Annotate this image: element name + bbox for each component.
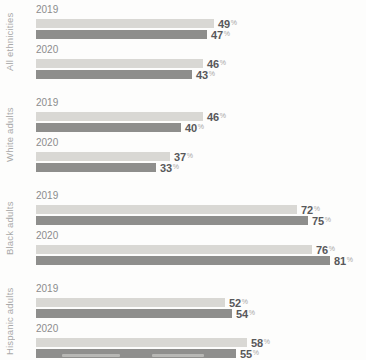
cropped-legend-remnant: [152, 354, 204, 357]
percent-sign: %: [231, 19, 237, 26]
bar-row: 72%: [36, 205, 366, 214]
value-label: 72%: [301, 204, 320, 215]
bar-row: 43%: [36, 70, 366, 79]
value-label: 54%: [236, 308, 255, 319]
year-group: 201949%47%: [36, 5, 366, 39]
value-label: 58%: [251, 337, 270, 348]
percent-sign: %: [253, 349, 259, 356]
bar-row: 37%: [36, 152, 366, 161]
bar-row: 81%: [36, 256, 366, 265]
category-section: Black adults201972%75%202076%81%: [0, 191, 366, 265]
value-label: 55%: [240, 348, 259, 359]
dark-gray-series-bar: [36, 163, 156, 172]
bar-row: 49%: [36, 19, 366, 28]
grouped-bar-chart: All ethnicities201949%47%202046%43%White…: [0, 5, 366, 360]
year-group: 201952%54%: [36, 284, 366, 318]
bar-row: 46%: [36, 112, 366, 121]
percent-sign: %: [314, 205, 320, 212]
light-gray-series-bar: [36, 59, 203, 68]
value-label: 52%: [229, 297, 248, 308]
value-label: 76%: [316, 244, 335, 255]
light-gray-series-bar: [36, 152, 170, 161]
value-label: 46%: [207, 111, 226, 122]
year-label: 2019: [36, 284, 366, 294]
dark-gray-series-bar: [36, 30, 207, 39]
cropped-legend-remnant: [62, 354, 120, 357]
bar-row: 52%: [36, 298, 366, 307]
value-number: 43: [196, 69, 208, 81]
dark-gray-series-bar: [36, 256, 330, 265]
year-group: 201946%40%: [36, 98, 366, 132]
value-label: 37%: [174, 151, 193, 162]
year-label: 2020: [36, 231, 366, 241]
category-section: Hispanic adults201952%54%202058%55%: [0, 284, 366, 358]
dark-gray-series-bar: [36, 123, 181, 132]
percent-sign: %: [249, 309, 255, 316]
bar-row: 54%: [36, 309, 366, 318]
percent-sign: %: [198, 123, 204, 130]
value-label: 49%: [218, 18, 237, 29]
value-label: 75%: [312, 215, 331, 226]
percent-sign: %: [264, 338, 270, 345]
light-gray-series-bar: [36, 205, 297, 214]
light-gray-series-bar: [36, 245, 312, 254]
percent-sign: %: [242, 298, 248, 305]
bar-row: 40%: [36, 123, 366, 132]
value-number: 46: [207, 111, 219, 123]
value-label: 46%: [207, 58, 226, 69]
value-number: 40: [185, 122, 197, 134]
category-axis-label: All ethnicities: [4, 5, 15, 79]
bar-row: 33%: [36, 163, 366, 172]
year-group: 202037%33%: [36, 138, 366, 172]
value-number: 54: [236, 308, 248, 320]
value-label: 81%: [334, 255, 353, 266]
value-number: 76: [316, 244, 328, 256]
year-label: 2019: [36, 191, 366, 201]
category-section: White adults201946%40%202037%33%: [0, 98, 366, 172]
value-number: 81: [334, 255, 346, 267]
value-number: 47: [211, 29, 223, 41]
value-label: 33%: [160, 162, 179, 173]
percent-sign: %: [329, 245, 335, 252]
percent-sign: %: [209, 70, 215, 77]
year-label: 2019: [36, 5, 366, 15]
dark-gray-series-bar: [36, 309, 232, 318]
light-gray-series-bar: [36, 298, 225, 307]
year-group: 202046%43%: [36, 45, 366, 79]
year-label: 2020: [36, 324, 366, 334]
percent-sign: %: [325, 216, 331, 223]
value-number: 55: [240, 348, 252, 360]
bar-row: 46%: [36, 59, 366, 68]
bar-row: 76%: [36, 245, 366, 254]
bar-row: 47%: [36, 30, 366, 39]
dark-gray-series-bar: [36, 70, 192, 79]
percent-sign: %: [187, 152, 193, 159]
percent-sign: %: [347, 256, 353, 263]
bar-row: 75%: [36, 216, 366, 225]
year-label: 2020: [36, 45, 366, 55]
percent-sign: %: [220, 112, 226, 119]
percent-sign: %: [173, 163, 179, 170]
dark-gray-series-bar: [36, 216, 308, 225]
year-group: 202058%55%: [36, 324, 366, 358]
value-number: 75: [312, 215, 324, 227]
category-axis-label: White adults: [4, 98, 15, 172]
year-label: 2019: [36, 98, 366, 108]
bar-row: 58%: [36, 338, 366, 347]
value-label: 43%: [196, 69, 215, 80]
value-number: 33: [160, 162, 172, 174]
percent-sign: %: [220, 59, 226, 66]
category-axis-label: Hispanic adults: [4, 284, 15, 358]
percent-sign: %: [224, 30, 230, 37]
category-axis-label: Black adults: [4, 191, 15, 265]
year-group: 202076%81%: [36, 231, 366, 265]
year-label: 2020: [36, 138, 366, 148]
light-gray-series-bar: [36, 338, 247, 347]
category-section: All ethnicities201949%47%202046%43%: [0, 5, 366, 79]
chart-screenshot: All ethnicities201949%47%202046%43%White…: [0, 0, 366, 360]
light-gray-series-bar: [36, 19, 214, 28]
year-group: 201972%75%: [36, 191, 366, 225]
value-label: 47%: [211, 29, 230, 40]
value-label: 40%: [185, 122, 204, 133]
light-gray-series-bar: [36, 112, 203, 121]
